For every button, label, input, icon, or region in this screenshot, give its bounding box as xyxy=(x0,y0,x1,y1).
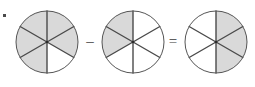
minuend-pie-center-hub xyxy=(46,41,49,44)
minus-operator: – xyxy=(85,33,94,49)
figure-canvas: –= xyxy=(0,0,255,87)
fraction-subtraction-diagram: –= xyxy=(0,0,255,87)
difference-pie xyxy=(185,11,247,73)
minuend-pie xyxy=(16,11,78,73)
pies-layer xyxy=(16,11,247,73)
subtrahend-pie xyxy=(102,11,164,73)
artifacts-layer xyxy=(3,14,6,17)
subtrahend-pie-center-hub xyxy=(132,41,135,44)
difference-pie-center-hub xyxy=(215,41,218,44)
corner-speck-artifact xyxy=(3,14,6,17)
equals-operator: = xyxy=(169,33,177,49)
